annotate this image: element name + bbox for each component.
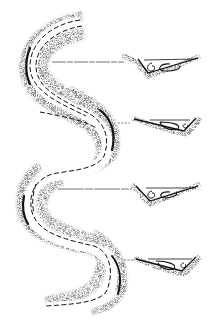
cross-section-4 [134,256,200,274]
meander-diagram [0,0,213,325]
section-3-vortex-left-icon [148,191,155,198]
cross-section-1 [122,56,200,76]
section-2-vortex-right-icon [183,124,188,128]
diagram-canvas [0,0,213,325]
section-3-bed-stipple [132,184,200,204]
section-4-vortex-right-icon [181,263,186,268]
section-1-vortex-left-icon [148,63,155,71]
cross-section-3 [132,184,200,204]
cross-section-2 [132,118,200,134]
